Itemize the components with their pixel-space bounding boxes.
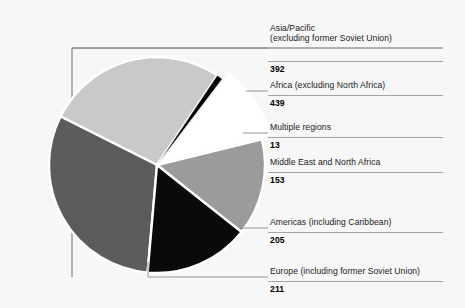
callout-label-americas-line1: Americas (including Caribbean) bbox=[270, 217, 391, 227]
callout-label-middle-east-line1: Middle East and North Africa bbox=[270, 157, 380, 167]
callout-label-multiple-regions: Multiple regions bbox=[270, 122, 331, 132]
callout-label-asia-pacific: Asia/Pacific (excluding former Soviet Un… bbox=[270, 23, 392, 44]
callout-value-americas: 205 bbox=[270, 235, 285, 245]
chart-canvas bbox=[0, 0, 465, 308]
callout-value-middle-east: 153 bbox=[270, 175, 285, 185]
callout-value-asia-pacific: 392 bbox=[270, 64, 285, 74]
callout-label-africa-line1: Africa (excluding North Africa) bbox=[270, 80, 385, 90]
callout-label-africa: Africa (excluding North Africa) bbox=[270, 80, 385, 90]
pie-slices-group bbox=[49, 57, 269, 273]
callout-label-asia-pacific-line1: Asia/Pacific bbox=[270, 23, 392, 33]
callout-label-middle-east: Middle East and North Africa bbox=[270, 157, 380, 167]
callout-value-africa: 439 bbox=[270, 98, 285, 108]
callout-value-europe: 211 bbox=[270, 284, 284, 294]
callout-label-multiple-regions-line1: Multiple regions bbox=[270, 122, 331, 132]
callout-label-europe: Europe (including former Soviet Union) bbox=[270, 266, 420, 276]
pie-chart-figure: Asia/Pacific (excluding former Soviet Un… bbox=[0, 0, 465, 308]
callout-label-americas: Americas (including Caribbean) bbox=[270, 217, 391, 227]
callout-label-asia-pacific-line2: (excluding former Soviet Union) bbox=[270, 33, 392, 43]
callout-label-europe-line1: Europe (including former Soviet Union) bbox=[270, 266, 420, 276]
callout-value-multiple-regions: 13 bbox=[270, 140, 280, 150]
